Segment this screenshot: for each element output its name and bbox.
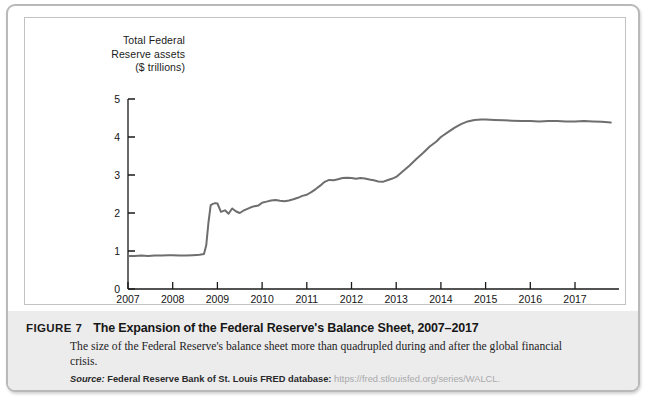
figure-title: The Expansion of the Federal Reserve's B…	[93, 321, 478, 335]
line-chart-svg: 012345 200720082009201020112012201320142…	[25, 18, 627, 306]
x-tick-label: 2010	[250, 293, 274, 305]
x-axis-ticks: 2007200820092010201120122013201420152016…	[116, 282, 587, 305]
x-tick-label: 2011	[296, 293, 319, 305]
x-tick-label: 2017	[563, 293, 587, 305]
source-label: Source:	[70, 374, 105, 384]
figure-source: Source: Federal Reserve Bank of St. Loui…	[70, 373, 610, 385]
y-tick-label: 1	[114, 245, 120, 257]
y-tick-label: 5	[114, 93, 120, 105]
x-tick-label: 2008	[161, 293, 185, 305]
y-axis-ticks: 012345	[114, 93, 135, 295]
source-url-link[interactable]: https://fred.stlouisfed.org/series/WALCL…	[334, 374, 500, 384]
x-tick-label: 2013	[385, 293, 409, 305]
figure-description: The size of the Federal Reserve's balanc…	[70, 340, 590, 369]
x-tick-label: 2016	[519, 293, 543, 305]
data-series-line	[128, 120, 611, 256]
y-tick-label: 3	[114, 169, 120, 181]
caption-band: FIGURE 7 The Expansion of the Federal Re…	[8, 311, 638, 390]
chart-panel: Total Federal Reserve assets ($ trillion…	[24, 17, 626, 305]
y-tick-label: 2	[114, 207, 120, 219]
figure-number-label: FIGURE 7	[26, 322, 82, 334]
x-tick-label: 2012	[340, 293, 364, 305]
x-tick-label: 2007	[116, 293, 140, 305]
x-tick-label: 2014	[429, 293, 453, 305]
y-tick-label: 4	[114, 131, 120, 143]
chart-plot-area: 012345 200720082009201020112012201320142…	[25, 18, 627, 306]
x-tick-label: 2015	[474, 293, 498, 305]
source-text: Federal Reserve Bank of St. Louis FRED d…	[107, 374, 331, 384]
x-tick-label: 2009	[206, 293, 230, 305]
caption-headline: FIGURE 7 The Expansion of the Federal Re…	[26, 321, 624, 335]
figure-card: Total Federal Reserve assets ($ trillion…	[6, 4, 640, 392]
